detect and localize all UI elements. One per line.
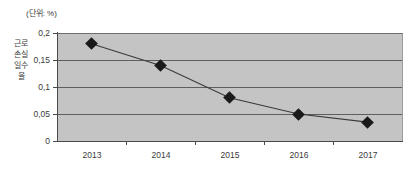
gridline-0.15 — [57, 60, 402, 61]
y-tick-label-0.15: 0,15 — [4, 55, 50, 65]
y-tick-mark-0.15 — [53, 60, 57, 61]
y-tick-label-0: 0 — [4, 136, 50, 146]
y-tick-mark-0 — [53, 141, 57, 142]
x-tick-mark-1 — [126, 141, 127, 145]
x-tick-label-2014: 2014 — [139, 150, 183, 160]
x-tick-label-2013: 2013 — [70, 150, 114, 160]
chart-container: (단위: %) 근로손실일수율 0,2 0,15 0,1 0,05 0 2013… — [0, 0, 416, 184]
unit-caption: (단위: %) — [26, 7, 57, 18]
y-tick-label-0.05: 0,05 — [4, 109, 50, 119]
y-tick-label-0.2: 0,2 — [4, 28, 50, 38]
x-tick-mark-4 — [333, 141, 334, 145]
x-tick-mark-2 — [195, 141, 196, 145]
y-tick-mark-0.1 — [53, 87, 57, 88]
x-tick-label-2015: 2015 — [208, 150, 252, 160]
gridline-0.05 — [57, 114, 402, 115]
y-tick-mark-0.2 — [53, 33, 57, 34]
y-tick-label-0.1: 0,1 — [4, 82, 50, 92]
x-tick-label-2017: 2017 — [346, 150, 390, 160]
plot-area — [57, 33, 403, 142]
x-tick-label-2016: 2016 — [277, 150, 321, 160]
x-axis-line — [57, 141, 403, 142]
y-tick-mark-0.05 — [53, 114, 57, 115]
y-axis-line — [57, 32, 58, 142]
x-tick-mark-3 — [264, 141, 265, 145]
gridline-0.10 — [57, 87, 402, 88]
